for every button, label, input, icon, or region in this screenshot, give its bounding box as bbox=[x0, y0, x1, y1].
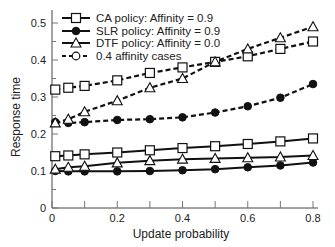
square-marker bbox=[178, 63, 187, 72]
legend: CA policy: Affinity = 0.9SLR policy: Aff… bbox=[62, 12, 220, 62]
legend-label: 0.4 affinity cases bbox=[96, 50, 182, 62]
x-tick-label: 0.8 bbox=[305, 212, 320, 224]
square-marker bbox=[51, 85, 60, 94]
x-tick-label: 0.2 bbox=[110, 212, 125, 224]
x-axis-label: Update probability bbox=[133, 227, 230, 241]
circle-marker bbox=[113, 168, 121, 176]
square-marker bbox=[51, 152, 60, 161]
legend-item: CA policy: Affinity = 0.9 bbox=[62, 12, 213, 24]
x-tick-label: 0.4 bbox=[175, 212, 190, 224]
square-marker bbox=[309, 134, 318, 143]
square-marker bbox=[64, 83, 73, 92]
square-marker bbox=[113, 76, 122, 85]
triangle-marker bbox=[178, 74, 188, 83]
y-tick-label: 0.3 bbox=[31, 91, 46, 103]
circle-marker bbox=[179, 166, 187, 174]
legend-label: SLR policy: Affinity = 0.9 bbox=[96, 25, 220, 37]
legend-item: SLR policy: Affinity = 0.9 bbox=[62, 25, 220, 37]
legend-marker-icon bbox=[72, 52, 80, 60]
circle-marker bbox=[146, 167, 154, 175]
y-tick-label: 0.5 bbox=[31, 17, 46, 29]
series-slr-policy-affinity-0-4 bbox=[51, 80, 316, 126]
circle-marker bbox=[211, 109, 219, 117]
circle-marker bbox=[309, 80, 317, 88]
legend-label: DTF policy: Affinity = 0.0 bbox=[96, 37, 220, 49]
legend-item: DTF policy: Affinity = 0.0 bbox=[62, 37, 220, 49]
circle-marker bbox=[244, 164, 252, 172]
circle-marker bbox=[244, 102, 252, 110]
square-marker bbox=[64, 151, 73, 160]
legend-marker-icon bbox=[72, 27, 80, 35]
square-marker bbox=[276, 137, 285, 146]
triangle-marker bbox=[112, 96, 122, 105]
y-tick-label: 0.1 bbox=[31, 165, 46, 177]
square-marker bbox=[243, 139, 252, 148]
circle-marker bbox=[277, 162, 285, 170]
x-tick-label: 0 bbox=[49, 212, 55, 224]
square-marker bbox=[80, 150, 89, 159]
chart-container: 00.10.20.30.40.500.20.40.60.8 CA policy:… bbox=[0, 0, 335, 247]
square-marker bbox=[80, 81, 89, 90]
circle-marker bbox=[146, 115, 154, 123]
legend-item: 0.4 affinity cases bbox=[62, 50, 182, 62]
y-tick-label: 0.4 bbox=[31, 54, 46, 66]
square-marker bbox=[309, 37, 318, 46]
square-marker bbox=[276, 44, 285, 53]
circle-marker bbox=[113, 116, 121, 124]
triangle-marker bbox=[308, 22, 318, 31]
legend-marker-icon bbox=[72, 14, 81, 23]
y-tick-label: 0.2 bbox=[31, 128, 46, 140]
square-marker bbox=[145, 68, 154, 77]
circle-marker bbox=[179, 114, 187, 122]
square-marker bbox=[113, 148, 122, 157]
legend-label: CA policy: Affinity = 0.9 bbox=[96, 12, 213, 24]
y-axis-label: Response time bbox=[9, 77, 23, 157]
y-tick-label: 0 bbox=[40, 202, 46, 214]
circle-marker bbox=[277, 94, 285, 102]
x-tick-label: 0.6 bbox=[240, 212, 255, 224]
circle-marker bbox=[81, 118, 89, 126]
square-marker bbox=[178, 144, 187, 153]
line-chart: 00.10.20.30.40.500.20.40.60.8 CA policy:… bbox=[0, 0, 335, 247]
square-marker bbox=[211, 142, 220, 151]
circle-marker bbox=[211, 165, 219, 173]
square-marker bbox=[145, 146, 154, 155]
